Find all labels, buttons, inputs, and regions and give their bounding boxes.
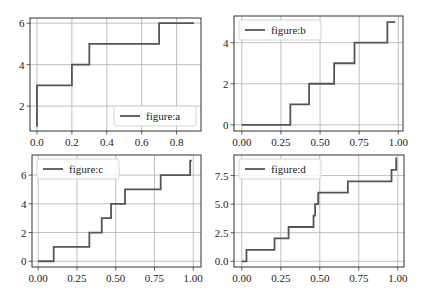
x-tick-label: 1.00 <box>184 272 204 284</box>
x-tick-label: 0.25 <box>67 272 87 284</box>
y-tick-label: 7.5 <box>215 170 229 182</box>
y-tick-label: 2.5 <box>215 227 229 239</box>
subplot-d: 0.000.250.500.751.000.02.55.07.5figure:d <box>215 155 408 284</box>
x-tick-label: 0.75 <box>350 136 370 148</box>
y-tick-label: 2 <box>223 78 229 90</box>
y-tick-label: 0.0 <box>215 255 229 267</box>
subplot-b: 0.000.250.500.751.00024figure:b <box>223 16 408 148</box>
x-tick-label: 0.8 <box>170 136 184 148</box>
x-tick-label: 0.50 <box>106 272 126 284</box>
x-tick-label: 0.50 <box>310 136 330 148</box>
x-tick-label: 0.0 <box>30 136 44 148</box>
x-tick-label: 0.2 <box>65 136 79 148</box>
y-tick-label: 6 <box>19 17 25 29</box>
y-tick-label: 2 <box>19 100 25 112</box>
y-tick-label: 4 <box>21 198 27 210</box>
x-tick-label: 0.00 <box>232 272 252 284</box>
subplot-c: 0.000.250.500.751.000246figure:c <box>21 155 203 284</box>
x-tick-label: 0.25 <box>271 272 291 284</box>
y-tick-label: 6 <box>21 169 27 181</box>
x-tick-label: 1.00 <box>388 272 408 284</box>
legend-label: figure:a <box>146 110 180 122</box>
legend-a: figure:a <box>114 106 196 126</box>
y-tick-label: 2 <box>21 227 27 239</box>
x-tick-label: 0.75 <box>349 272 369 284</box>
y-tick-label: 4 <box>19 59 25 71</box>
x-tick-label: 0.6 <box>135 136 149 148</box>
x-tick-label: 0.75 <box>145 272 165 284</box>
y-tick-label: 5.0 <box>215 198 229 210</box>
legend-label: figure:d <box>271 163 306 175</box>
x-tick-label: 0.25 <box>271 136 291 148</box>
legend-d: figure:d <box>239 159 321 179</box>
legend-c: figure:c <box>37 159 119 179</box>
figure-grid: 0.00.20.40.60.8246figure:a0.000.250.500.… <box>0 0 421 299</box>
x-tick-label: 0.4 <box>100 136 114 148</box>
legend-label: figure:c <box>69 163 103 175</box>
x-tick-label: 0.00 <box>232 136 252 148</box>
subplot-a: 0.00.20.40.60.8246figure:a <box>19 17 201 148</box>
x-tick-label: 0.50 <box>310 272 330 284</box>
legend-label: figure:b <box>271 24 306 36</box>
y-tick-label: 0 <box>223 119 229 131</box>
y-tick-label: 4 <box>223 37 229 49</box>
legend-b: figure:b <box>239 20 321 40</box>
y-tick-label: 0 <box>21 255 27 267</box>
x-tick-label: 1.00 <box>389 136 409 148</box>
x-tick-label: 0.00 <box>29 272 49 284</box>
